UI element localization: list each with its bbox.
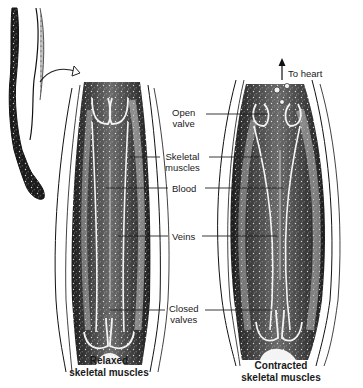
skeletal-muscles-label: Skeletal muscles	[165, 151, 200, 173]
relaxed-panel	[55, 82, 169, 372]
relaxed-caption: Relaxed skeletal muscles	[64, 355, 154, 378]
open-valve-line2: valve	[172, 118, 195, 129]
contracted-caption-line1: Contracted	[236, 360, 326, 372]
to-heart-arrow	[279, 58, 286, 80]
contracted-caption-line2: skeletal muscles	[236, 372, 326, 384]
relaxed-caption-line2: skeletal muscles	[64, 367, 154, 379]
blood-label: Blood	[172, 183, 196, 194]
open-valve-line1: Open	[172, 107, 195, 118]
closed-valves-line1: Closed	[169, 303, 199, 314]
skeletal-muscles-line2: muscles	[165, 162, 200, 173]
contracted-caption: Contracted skeletal muscles	[236, 360, 326, 383]
zoom-arrowhead	[72, 66, 80, 76]
veins-label: Veins	[172, 231, 195, 242]
to-heart-label: To heart	[288, 68, 322, 79]
skeletal-muscles-line1: Skeletal	[165, 151, 200, 162]
contracted-panel	[218, 80, 340, 366]
relaxed-caption-line1: Relaxed	[64, 355, 154, 367]
closed-valves-label: Closed valves	[169, 303, 199, 325]
diagram-canvas	[0, 0, 363, 388]
leg-illustration	[9, 8, 44, 199]
closed-valves-line2: valves	[169, 314, 199, 325]
open-valve-label: Open valve	[172, 107, 195, 129]
